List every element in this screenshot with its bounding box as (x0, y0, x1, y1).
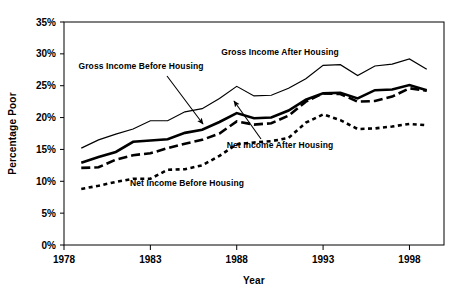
x-axis-tick-label: 1983 (139, 254, 162, 265)
series-annotation-label: Gross Income Before Housing (78, 61, 203, 71)
y-axis-tick-label: 15% (36, 144, 56, 155)
series-annotation-label: Net Income After Housing (227, 140, 333, 150)
series-annotation-label: Gross Income After Housing (221, 47, 339, 57)
x-axis-tick-label: 1988 (226, 254, 249, 265)
x-axis-tick-label: 1998 (398, 254, 421, 265)
y-axis-tick-label: 25% (36, 80, 56, 91)
series-annotation-label: Net Income Before Housing (130, 178, 244, 188)
y-axis-tick-label: 10% (36, 176, 56, 187)
line-chart: 0%5%10%15%20%25%30%35%197819831988199319… (0, 0, 469, 296)
y-axis: 0%5%10%15%20%25%30%35% (36, 17, 64, 251)
y-axis-tick-label: 20% (36, 112, 56, 123)
y-axis-tick-label: 35% (36, 17, 56, 28)
y-axis-tick-label: 30% (36, 48, 56, 59)
x-axis-title: Year (243, 275, 265, 286)
x-axis-tick-label: 1978 (53, 254, 76, 265)
y-axis-tick-label: 5% (42, 208, 57, 219)
y-axis-title: Percentage Poor (7, 92, 18, 174)
chart-container: 0%5%10%15%20%25%30%35%197819831988199319… (0, 0, 469, 296)
x-axis-tick-label: 1993 (312, 254, 335, 265)
y-axis-tick-label: 0% (42, 240, 57, 251)
x-axis: 19781983198819931998 (53, 245, 421, 265)
